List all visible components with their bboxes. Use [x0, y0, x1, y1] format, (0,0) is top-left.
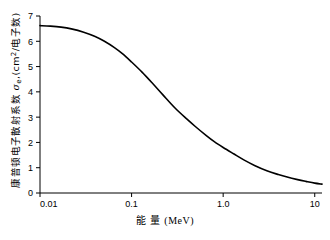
x-axis-label: 能 量 (MeV)	[0, 212, 330, 227]
y-axis-tick-labels: 01234567	[28, 11, 33, 198]
y-tick-label: 7	[28, 11, 33, 21]
chart-figure: 康普顿电子散射系数 σe,(cm2/电子数) 01234567 0.010.11…	[0, 0, 330, 240]
y-tick-label: 1	[28, 163, 33, 173]
x-axis-label-unit: (MeV)	[164, 215, 194, 226]
x-tick-label: 1.0	[217, 199, 230, 209]
plot-area: 01234567 0.010.11.010	[0, 0, 330, 240]
x-tick-label: 10	[310, 199, 320, 209]
x-tick-label: 0.01	[40, 199, 58, 209]
y-tick-label: 6	[28, 37, 33, 47]
y-tick-label: 0	[28, 188, 33, 198]
compton-coefficient-curve	[40, 26, 322, 185]
x-axis-label-name: 能 量	[136, 215, 161, 226]
x-axis-tick-marks	[40, 193, 315, 197]
y-axis-tick-marks	[36, 16, 40, 193]
y-tick-label: 3	[28, 113, 33, 123]
x-axis-tick-labels: 0.010.11.010	[40, 199, 320, 209]
x-tick-label: 0.1	[125, 199, 138, 209]
y-tick-label: 5	[28, 62, 33, 72]
y-tick-label: 2	[28, 138, 33, 148]
y-tick-label: 4	[28, 87, 33, 97]
